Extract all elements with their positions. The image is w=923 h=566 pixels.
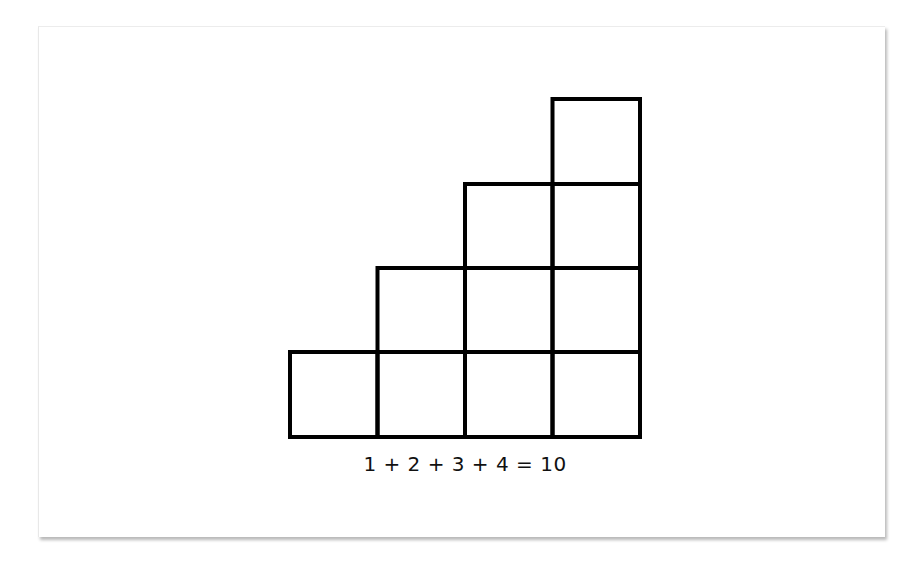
square-c4-r4 (553, 99, 641, 184)
square-c2-r1 (378, 352, 466, 437)
square-c2-r2 (378, 268, 466, 352)
square-c1-r1 (290, 352, 378, 437)
square-c3-r3 (465, 184, 553, 268)
square-c4-r3 (553, 184, 641, 268)
staircase-diagram (0, 0, 923, 566)
sum-caption: 1 + 2 + 3 + 4 = 10 (290, 452, 640, 476)
square-c3-r1 (465, 352, 553, 437)
square-c3-r2 (465, 268, 553, 352)
square-c4-r2 (553, 268, 641, 352)
square-c4-r1 (553, 352, 641, 437)
